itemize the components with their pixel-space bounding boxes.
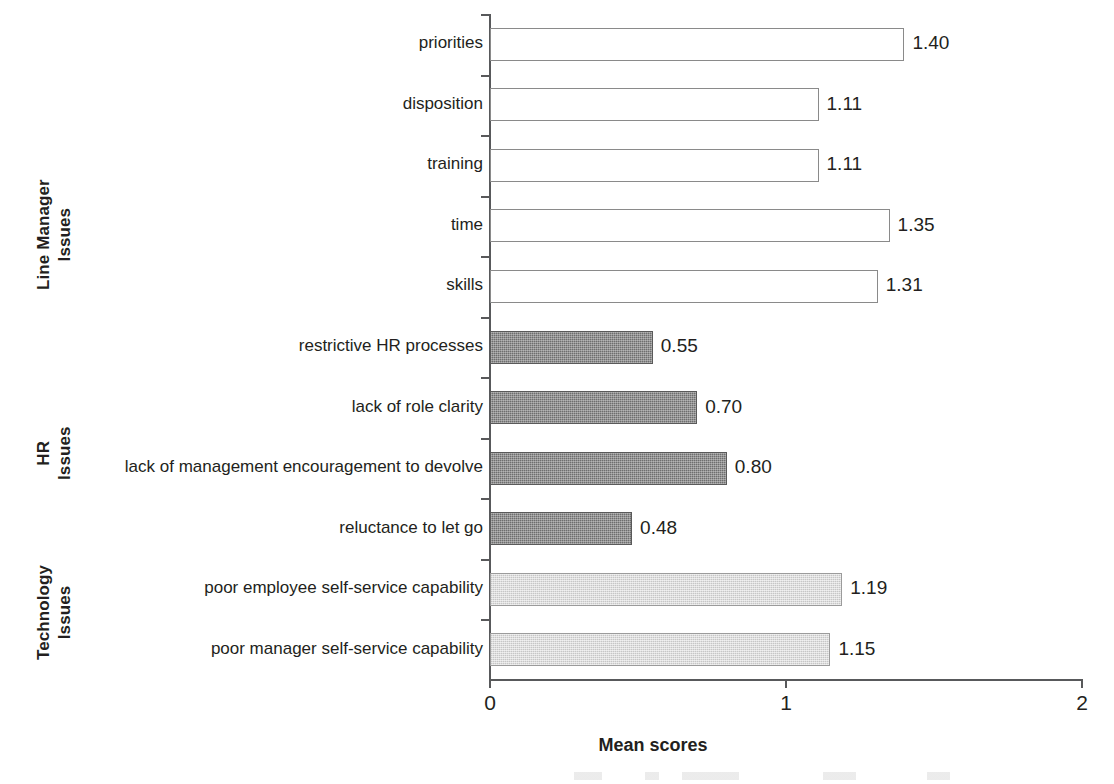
group-label-line-2: Issues <box>55 426 76 480</box>
bar <box>490 452 727 485</box>
value-label: 1.19 <box>850 577 887 599</box>
y-axis-tick <box>481 317 490 319</box>
category-label: poor employee self-service capability <box>204 578 483 598</box>
y-axis-tick-top <box>481 14 490 16</box>
y-axis-tick <box>481 559 490 561</box>
bar <box>490 149 819 182</box>
group-label-line-2: Issues <box>55 565 76 660</box>
y-axis-tick <box>481 75 490 77</box>
x-axis-tick-label: 2 <box>1076 691 1088 715</box>
category-label: training <box>427 154 483 174</box>
group-label-line-manager-issues: Line Manager Issues <box>34 179 75 290</box>
bar <box>490 88 819 121</box>
bar <box>490 391 697 424</box>
category-label: lack of management encouragement to devo… <box>125 457 483 477</box>
value-label: 0.55 <box>661 335 698 357</box>
y-axis-tick <box>481 135 490 137</box>
y-axis-tick <box>481 619 490 621</box>
x-axis-tick-label: 1 <box>780 691 792 715</box>
value-label: 0.80 <box>735 456 772 478</box>
category-label: disposition <box>403 94 483 114</box>
value-label: 1.40 <box>912 32 949 54</box>
x-axis-title: Mean scores <box>0 735 1114 756</box>
x-axis-tick-label: 0 <box>484 691 496 715</box>
group-label-line-1: HR <box>34 426 55 480</box>
bar <box>490 573 842 606</box>
value-label: 0.70 <box>705 396 742 418</box>
category-label: poor manager self-service capability <box>211 639 483 659</box>
value-label: 1.11 <box>827 93 863 115</box>
category-label: lack of role clarity <box>352 397 483 417</box>
category-label: priorities <box>419 33 483 53</box>
page-artifact <box>560 772 1030 780</box>
value-label: 1.35 <box>898 214 935 236</box>
value-label: 0.48 <box>640 517 677 539</box>
bar <box>490 633 830 666</box>
y-axis-tick <box>481 498 490 500</box>
value-label: 1.15 <box>838 638 875 660</box>
group-label-hr-issues: HR Issues <box>34 426 75 480</box>
y-axis-tick <box>481 256 490 258</box>
category-label: restrictive HR processes <box>299 336 483 356</box>
y-axis-tick <box>481 377 490 379</box>
bar <box>490 512 632 545</box>
x-axis-title-text: Mean scores <box>598 735 707 755</box>
value-label: 1.11 <box>827 153 863 175</box>
y-axis-tick <box>481 438 490 440</box>
value-label: 1.31 <box>886 274 923 296</box>
group-label-line-1: Line Manager <box>34 179 55 290</box>
bar-chart: Line Manager Issues HR Issues Technology… <box>0 0 1114 784</box>
x-axis-origin-stub <box>489 674 491 682</box>
category-label: time <box>451 215 483 235</box>
group-label-technology-issues: Technology Issues <box>34 565 75 660</box>
bar <box>490 28 904 61</box>
x-axis-tick <box>1081 679 1083 688</box>
category-label: skills <box>446 275 483 295</box>
group-label-line-1: Technology <box>34 565 55 660</box>
group-label-line-2: Issues <box>55 179 76 290</box>
y-axis-tick <box>481 196 490 198</box>
x-axis-tick <box>785 679 787 688</box>
bar <box>490 331 653 364</box>
bar <box>490 270 878 303</box>
bar <box>490 209 890 242</box>
category-label: reluctance to let go <box>339 518 483 538</box>
